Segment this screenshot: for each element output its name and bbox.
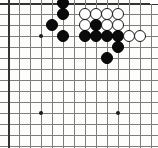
grid-line-horizontal <box>0 80 158 81</box>
grid-line-vertical <box>129 0 130 148</box>
grid-line-horizontal <box>0 58 158 59</box>
grid-line-vertical <box>63 0 64 148</box>
grid-line-horizontal <box>0 146 158 147</box>
white-stone[interactable] <box>134 30 146 42</box>
star-point <box>39 111 43 115</box>
grid-line-vertical <box>74 0 75 148</box>
star-point <box>39 34 43 38</box>
grid-line-vertical <box>140 0 141 148</box>
grid-line-vertical <box>19 0 20 148</box>
black-stone[interactable] <box>46 19 58 31</box>
grid-line-vertical <box>151 0 152 148</box>
black-stone[interactable] <box>57 30 69 42</box>
grid-line-horizontal <box>0 69 158 70</box>
grid-line-vertical <box>30 0 31 148</box>
star-point <box>116 111 120 115</box>
grid-line-horizontal <box>0 124 158 125</box>
grid-line-horizontal <box>0 47 158 48</box>
go-board-diagram <box>0 0 158 148</box>
corner-mask <box>150 0 158 4</box>
grid-line-horizontal <box>0 91 158 92</box>
grid-line-horizontal <box>0 113 158 114</box>
black-stone[interactable] <box>112 41 124 53</box>
black-stone[interactable] <box>57 8 69 20</box>
grid-line-horizontal <box>0 3 158 5</box>
grid-line-vertical <box>8 0 10 148</box>
grid-line-horizontal <box>0 135 158 136</box>
black-stone[interactable] <box>101 52 113 64</box>
grid-line-horizontal <box>0 102 158 103</box>
grid-line-vertical <box>41 0 42 148</box>
